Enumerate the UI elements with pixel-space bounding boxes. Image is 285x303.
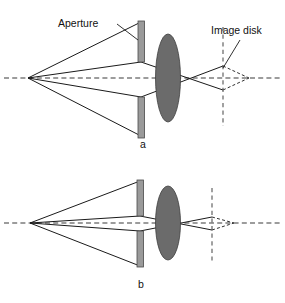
- panel-letter-b: b: [138, 278, 144, 290]
- ray-dashed-lower-b: [212, 223, 234, 230]
- panel-b: b: [4, 180, 281, 290]
- ray-dashed-upper-b: [212, 217, 234, 223]
- image-disk-label: Image disk: [211, 24, 263, 36]
- ray-lower-edge-a: [28, 66, 223, 97]
- ray-dashed-upper-a: [223, 66, 249, 78]
- aperture-bar-top-b: [137, 180, 144, 216]
- image-disk-leader-line: [223, 40, 240, 68]
- panel-letter-a: a: [140, 138, 146, 150]
- aperture-bar-bottom-a: [138, 97, 145, 138]
- lens-b: [156, 186, 181, 260]
- aperture-label: Aperture: [58, 17, 98, 29]
- ray-lower-edge-b: [30, 217, 212, 231]
- ray-dashed-lower-a: [223, 78, 249, 90]
- aperture-bar-bottom-b: [137, 231, 144, 267]
- ray-blocked-lower-a: [28, 78, 141, 136]
- optics-figure: a Aperture Image disk: [0, 0, 285, 303]
- lens-a: [156, 34, 181, 122]
- ray-upper-edge-a: [28, 62, 223, 90]
- ray-diagram-svg: a Aperture Image disk: [0, 0, 285, 303]
- aperture-bar-top-a: [138, 21, 145, 62]
